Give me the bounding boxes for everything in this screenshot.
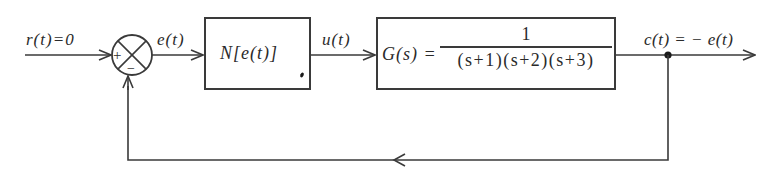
plant-transfer-function-fraction: 1 (s+1)(s+2)(s+3) xyxy=(440,25,612,69)
plant-denominator: (s+1)(s+2)(s+3) xyxy=(458,48,595,69)
nonlinear-block-label: N[e(t)] xyxy=(220,44,278,62)
plant-transfer-function-lhs: G(s) = xyxy=(382,45,437,63)
minus-sign: − xyxy=(127,62,135,76)
plant-numerator: 1 xyxy=(522,25,531,46)
plus-sign: + xyxy=(113,48,121,63)
control-signal-label: u(t) xyxy=(322,31,351,48)
input-label: r(t)=0 xyxy=(26,31,75,48)
error-signal-label: e(t) xyxy=(157,31,185,48)
output-label: c(t) = − e(t) xyxy=(644,31,733,48)
